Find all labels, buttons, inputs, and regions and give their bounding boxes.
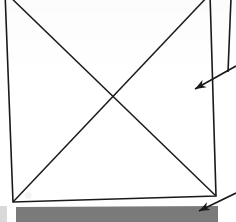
figure-background: [0, 0, 236, 222]
figure-canvas: [0, 0, 236, 222]
shaded-band: [16, 206, 218, 222]
scan-edge-strip: [0, 206, 7, 222]
drawing-surface: [0, 0, 236, 222]
